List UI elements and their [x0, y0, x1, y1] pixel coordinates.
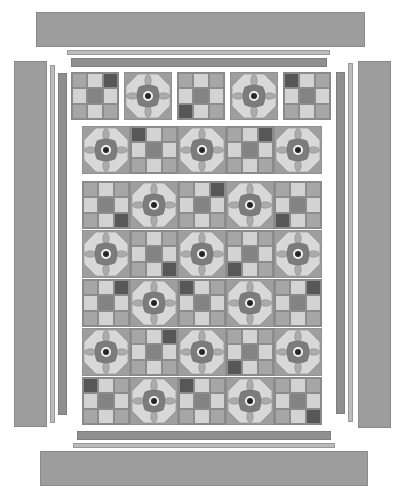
- patch-square: [179, 393, 194, 408]
- patch-square: [179, 280, 194, 295]
- patch-square: [146, 262, 161, 277]
- flower-block: [274, 126, 322, 174]
- patch-square: [114, 280, 129, 295]
- flower-block: [124, 72, 172, 120]
- nine-patch-block: [130, 126, 178, 174]
- flower-block-art: [124, 72, 172, 120]
- main-row-4: [82, 328, 322, 376]
- left-thin-strip: [50, 65, 55, 423]
- flower-block-art: [226, 279, 274, 327]
- patch-square: [227, 246, 242, 261]
- patch-square: [315, 88, 330, 103]
- flower-block: [274, 328, 322, 376]
- flower-block: [274, 230, 322, 278]
- patch-square: [194, 311, 209, 326]
- patch-square: [306, 378, 321, 393]
- patch-square: [275, 378, 290, 393]
- flower-block: [130, 377, 178, 425]
- right-outer-border: [358, 61, 391, 428]
- patch-square: [162, 329, 177, 344]
- flower-block: [82, 328, 130, 376]
- patch-square: [162, 142, 177, 157]
- flower-block-art: [130, 181, 178, 229]
- patch-square: [194, 280, 209, 295]
- patch-square: [258, 231, 273, 246]
- patch-square: [162, 246, 177, 261]
- patch-square: [146, 231, 161, 246]
- patch-square: [227, 158, 242, 173]
- top-thin-strip: [67, 50, 330, 55]
- top-separate-row: [71, 72, 331, 120]
- patch-square: [179, 197, 194, 212]
- main-row-1: [82, 181, 322, 229]
- patch-square: [179, 295, 194, 310]
- patch-square: [258, 142, 273, 157]
- flower-block-art: [230, 72, 278, 120]
- patch-square: [210, 393, 225, 408]
- patch-square: [242, 344, 257, 359]
- patch-square: [315, 73, 330, 88]
- patch-square: [258, 158, 273, 173]
- patch-square: [210, 197, 225, 212]
- patch-square: [114, 182, 129, 197]
- patch-square: [258, 344, 273, 359]
- patch-square: [290, 197, 305, 212]
- patch-square: [179, 182, 194, 197]
- top-outer-border: [36, 12, 365, 47]
- patch-square: [194, 295, 209, 310]
- main-row-5: [82, 377, 322, 425]
- flower-block-art: [82, 230, 130, 278]
- second-row: [82, 126, 322, 174]
- patch-square: [242, 262, 257, 277]
- patch-square: [227, 127, 242, 142]
- patch-square: [87, 88, 102, 103]
- flower-block-art: [226, 377, 274, 425]
- nine-patch-block: [130, 328, 178, 376]
- patch-square: [275, 182, 290, 197]
- flower-block: [226, 181, 274, 229]
- patch-square: [290, 393, 305, 408]
- nine-patch-block: [226, 126, 274, 174]
- patch-square: [275, 295, 290, 310]
- nine-patch-block: [178, 377, 226, 425]
- patch-square: [210, 311, 225, 326]
- patch-square: [306, 393, 321, 408]
- patch-square: [114, 295, 129, 310]
- patch-square: [210, 182, 225, 197]
- patch-square: [193, 73, 208, 88]
- patch-square: [131, 360, 146, 375]
- patch-square: [284, 104, 299, 119]
- patch-square: [83, 213, 98, 228]
- patch-square: [87, 73, 102, 88]
- patch-square: [306, 295, 321, 310]
- patch-square: [146, 246, 161, 261]
- patch-square: [194, 409, 209, 424]
- patch-square: [242, 127, 257, 142]
- patch-square: [114, 393, 129, 408]
- left-outer-border: [14, 61, 47, 427]
- patch-square: [210, 295, 225, 310]
- patch-square: [72, 88, 87, 103]
- nine-patch-block: [177, 72, 225, 120]
- patch-square: [242, 329, 257, 344]
- patch-square: [284, 73, 299, 88]
- patch-square: [290, 409, 305, 424]
- patch-square: [227, 231, 242, 246]
- main-row-2: [82, 230, 322, 278]
- patch-square: [284, 88, 299, 103]
- patch-square: [290, 280, 305, 295]
- right-medium-strip: [336, 72, 345, 414]
- patch-square: [209, 88, 224, 103]
- patch-square: [179, 409, 194, 424]
- patch-square: [83, 393, 98, 408]
- patch-square: [275, 197, 290, 212]
- patch-square: [98, 311, 113, 326]
- patch-square: [131, 158, 146, 173]
- patch-square: [275, 311, 290, 326]
- patch-square: [98, 393, 113, 408]
- nine-patch-block: [82, 377, 130, 425]
- flower-block-art: [274, 328, 322, 376]
- patch-square: [227, 360, 242, 375]
- patch-square: [306, 213, 321, 228]
- flower-block-art: [178, 230, 226, 278]
